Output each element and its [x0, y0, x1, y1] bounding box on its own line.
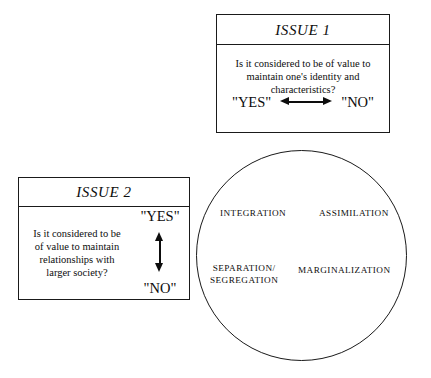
issue-1-answer-row: "YES" "NO" — [217, 95, 389, 110]
horizontal-double-arrow-icon — [280, 96, 332, 108]
issue-2-yes-label: "YES" — [140, 209, 179, 224]
strategy-label-separation-line-2: SEGREGATION — [210, 275, 278, 287]
vertical-double-arrow-icon — [154, 232, 166, 272]
issue-1-question-line-1: Is it considered to be of value to — [226, 57, 380, 70]
issue-1-question-line-2: maintain one's identity and — [226, 70, 380, 83]
issue-2-box: ISSUE 2 Is it considered to be of value … — [18, 177, 190, 300]
issue-2-header: ISSUE 2 — [19, 178, 189, 207]
issue-2-question-line-3: relationships with — [23, 253, 131, 266]
issue-1-yes-label: "YES" — [232, 95, 271, 110]
issue-2-question-line-1: Is it considered to be — [23, 227, 131, 240]
strategy-label-separation-line-1: SEPARATION/ — [210, 263, 278, 275]
strategy-label-integration: INTEGRATION — [220, 208, 286, 220]
arrow-shaft — [287, 101, 325, 103]
issue-1-question: Is it considered to be of value to maint… — [217, 57, 389, 96]
issue-1-box: ISSUE 1 Is it considered to be of value … — [216, 14, 390, 133]
arrow-shaft — [159, 239, 161, 265]
strategy-label-assimilation: ASSIMILATION — [319, 208, 389, 220]
issue-2-no-label: "NO" — [144, 281, 177, 296]
issue-2-question-line-4: larger society? — [23, 266, 131, 279]
issue-1-body: Is it considered to be of value to maint… — [217, 45, 389, 131]
acculturation-diagram: ISSUE 1 Is it considered to be of value … — [0, 0, 431, 378]
issue-2-body: Is it considered to be of value to maint… — [19, 207, 189, 299]
issue-1-no-label: "NO" — [341, 95, 374, 110]
arrow-head-down-icon — [155, 263, 163, 272]
issue-2-question: Is it considered to be of value to maint… — [19, 227, 131, 279]
arrow-head-right-icon — [323, 97, 332, 105]
acculturation-strategies-circle: INTEGRATION ASSIMILATION SEPARATION/ SEG… — [196, 150, 407, 361]
issue-2-answer-column: "YES" "NO" — [131, 209, 189, 297]
strategy-label-marginalization: MARGINALIZATION — [298, 265, 391, 277]
strategy-label-separation-segregation: SEPARATION/ SEGREGATION — [210, 263, 278, 286]
issue-1-header: ISSUE 1 — [217, 15, 389, 45]
issue-2-question-line-2: of value to maintain — [23, 240, 131, 253]
